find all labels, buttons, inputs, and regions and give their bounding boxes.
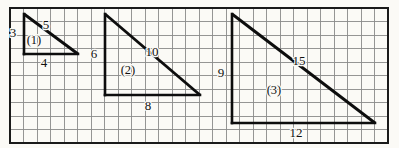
triangle-3-hypotenuse-label: 15 [293, 53, 306, 68]
triangle-3-index-label: (3) [267, 83, 282, 97]
triangle-2-index-label: (2) [121, 63, 136, 77]
triangle-3-horizontal-leg-label: 12 [290, 125, 303, 140]
triangle-2-hypotenuse-label: 10 [146, 44, 159, 59]
triangles-diagram-svg: 345(1)6810(2)91215(3) [0, 0, 399, 148]
paper-background [0, 0, 399, 148]
figure-canvas: 345(1)6810(2)91215(3) [0, 0, 399, 148]
triangle-1-index-label: (1) [27, 33, 42, 47]
triangle-3-vertical-leg-label: 9 [218, 65, 225, 80]
triangle-1-vertical-leg-label: 3 [10, 25, 17, 40]
triangle-1-hypotenuse-label: 5 [43, 17, 50, 32]
triangle-2-horizontal-leg-label: 8 [145, 98, 152, 113]
triangle-1-horizontal-leg-label: 4 [41, 55, 48, 70]
triangle-2-vertical-leg-label: 6 [91, 46, 98, 61]
